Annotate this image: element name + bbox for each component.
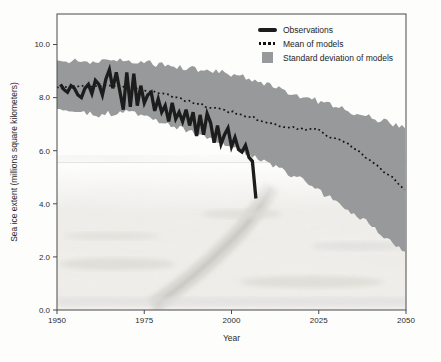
gray-square-swatch-icon <box>256 52 278 63</box>
dotted-line-swatch-icon <box>256 42 278 45</box>
x-tick-label: 2050 <box>397 316 415 325</box>
x-tick-label: 1950 <box>48 316 66 325</box>
y-tick-label: 8.0 <box>39 93 51 102</box>
y-tick-label: 10.0 <box>34 40 50 49</box>
legend-item-mean-of-models: Mean of models <box>256 38 393 49</box>
legend-label: Observations <box>283 25 333 35</box>
thick-line-swatch-icon <box>256 28 278 32</box>
legend-label: Mean of models <box>283 39 343 49</box>
x-tick-label: 2025 <box>310 316 328 325</box>
y-axis-title: Sea ice extent (millions square kilomete… <box>9 82 19 242</box>
x-axis-title: Year <box>57 333 406 343</box>
y-tick-label: 2.0 <box>39 253 51 262</box>
y-tick-label: 6.0 <box>39 147 51 156</box>
y-tick-label: 0.0 <box>39 306 51 315</box>
sea-ice-extent-figure: 1950197520002025205010.08.06.04.02.00.0 … <box>0 0 441 362</box>
legend-item-std-deviation: Standard deviation of models <box>256 52 393 63</box>
legend-label: Standard deviation of models <box>283 53 393 63</box>
y-tick-label: 4.0 <box>39 200 51 209</box>
x-tick-label: 2000 <box>223 316 241 325</box>
legend: Observations Mean of models Standard dev… <box>256 24 393 63</box>
legend-item-observations: Observations <box>256 24 393 35</box>
x-tick-label: 1975 <box>135 316 153 325</box>
